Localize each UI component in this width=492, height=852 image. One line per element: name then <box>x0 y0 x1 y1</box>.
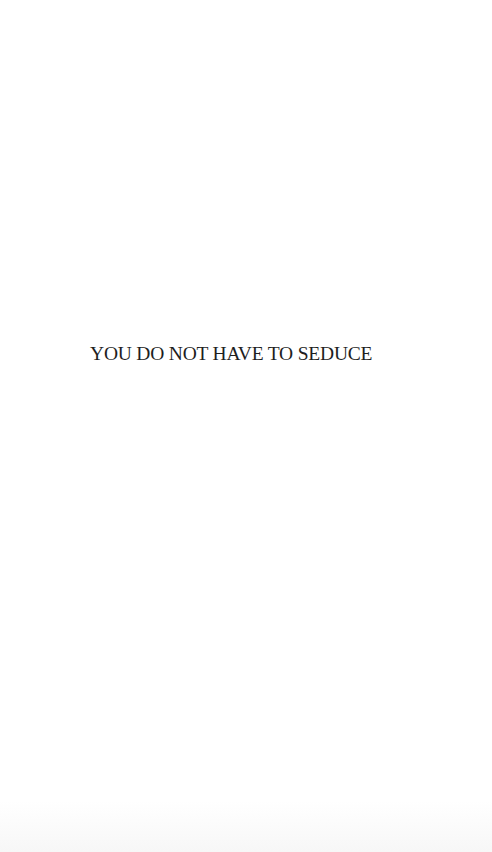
book-page: YOU DO NOT HAVE TO SEDUCE <box>0 0 492 852</box>
page-title: YOU DO NOT HAVE TO SEDUCE <box>90 340 390 368</box>
